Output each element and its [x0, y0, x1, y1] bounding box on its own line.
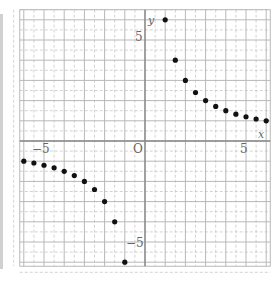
y-axis-label: y — [147, 14, 155, 27]
data-point — [254, 116, 259, 121]
data-point — [264, 118, 269, 123]
data-point — [31, 160, 36, 165]
data-point — [223, 108, 228, 113]
data-point — [243, 114, 248, 119]
y-tick-neg5: −5 — [126, 236, 144, 250]
x-tick-pos5: 5 — [240, 142, 248, 156]
data-point — [213, 104, 218, 109]
data-point — [183, 78, 188, 83]
data-point — [163, 17, 168, 22]
data-point — [41, 163, 46, 168]
data-point — [72, 173, 77, 178]
data-point — [173, 58, 178, 63]
data-point — [52, 165, 57, 170]
data-point — [233, 112, 238, 117]
data-point — [193, 90, 198, 95]
axis-labels: y x O −5 5 5 −5 — [32, 14, 265, 250]
origin-label: O — [133, 142, 143, 156]
data-point — [102, 199, 107, 204]
scatter-plot: y x O −5 5 5 −5 — [0, 0, 279, 283]
data-point — [203, 98, 208, 103]
data-point — [82, 179, 87, 184]
axes — [20, 10, 270, 267]
data-point — [21, 159, 26, 164]
x-tick-neg5: −5 — [32, 142, 50, 156]
data-point — [62, 169, 67, 174]
x-axis-label: x — [258, 128, 265, 141]
y-tick-pos5: 5 — [135, 30, 143, 44]
data-point — [92, 187, 97, 192]
data-point — [112, 219, 117, 224]
data-point — [122, 260, 127, 265]
